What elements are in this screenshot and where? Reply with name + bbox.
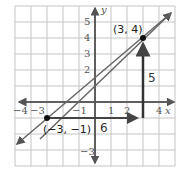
y-tick: −3 [80, 146, 95, 157]
y-tick: 4 [84, 32, 90, 43]
point-label: (−3, −1) [43, 123, 91, 136]
y-tick: 3 [84, 48, 90, 59]
x-tick: 1 [108, 105, 114, 116]
point-label: (3, 4) [113, 23, 143, 36]
run-label: 6 [100, 121, 108, 135]
x-tick: −4 [13, 105, 28, 116]
x-tick: 2 [124, 105, 130, 116]
x-axis-label: x [165, 105, 171, 116]
x-tick: −3 [30, 105, 45, 116]
coordinate-plane: y x 5 4 3 2 −3 −4 −3 −1 1 2 4 (3, 4) (−3… [0, 0, 182, 176]
x-tick: 4 [156, 105, 162, 116]
y-axis-label: y [100, 4, 107, 15]
rise-label: 5 [148, 71, 156, 85]
y-tick: 5 [84, 16, 90, 27]
y-tick: 2 [84, 64, 90, 75]
point-neg3-neg1 [44, 115, 50, 121]
